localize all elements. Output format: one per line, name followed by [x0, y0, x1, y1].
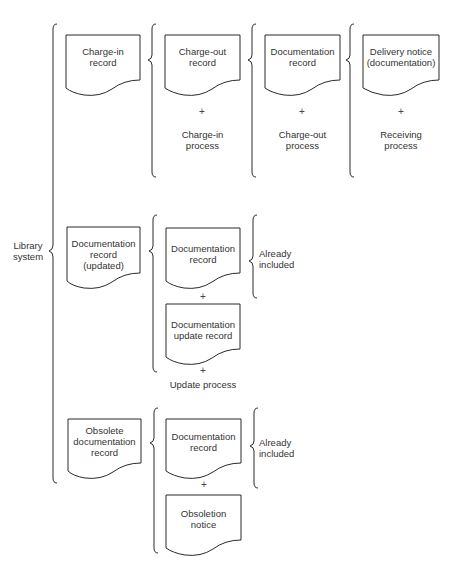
label-line: record: [265, 57, 340, 68]
row1-brace-3: [346, 24, 354, 177]
label-line: Charge-in: [66, 46, 140, 57]
diagram-lines: [0, 0, 460, 567]
label-line: notice: [164, 519, 243, 530]
label-line: Delivery notice: [361, 46, 441, 57]
label-line: process: [363, 140, 439, 151]
plus-sign: +: [197, 292, 209, 302]
label-line: Charge-in: [165, 129, 240, 140]
label-receiving-process: Receiving process: [363, 129, 439, 151]
label-line: Documentation: [164, 319, 242, 330]
label-line: Documentation: [164, 431, 243, 442]
label-line: record: [164, 254, 242, 265]
label-line: Obsolete: [64, 425, 145, 436]
label-already-included: Already included: [259, 248, 299, 270]
label-line: Receiving: [363, 129, 439, 140]
row2-brace: [149, 215, 157, 372]
root-label-text: Library system: [10, 240, 46, 262]
label-line: included: [259, 448, 299, 459]
label-row3-documentation-record: Documentation record: [164, 431, 243, 453]
label-delivery-notice: Delivery notice (documentation): [361, 46, 441, 68]
label-update-process: Update process: [160, 379, 246, 390]
row3-brace: [150, 408, 158, 553]
label-documentation-update-record: Documentation update record: [164, 319, 242, 341]
label-line: Documentation: [164, 243, 242, 254]
label-line: documentation: [64, 436, 145, 447]
label-charge-out-record: Charge-out record: [165, 46, 240, 68]
label-charge-in-process: Charge-in process: [165, 129, 240, 151]
label-line: record: [164, 442, 243, 453]
label-line: record: [64, 447, 145, 458]
label-charge-out-process: Charge-out process: [265, 129, 340, 151]
label-line: Charge-out: [165, 46, 240, 57]
label-line: Obsoletion: [164, 508, 243, 519]
plus-sign: +: [395, 107, 407, 117]
label-line: process: [165, 140, 240, 151]
label-line: Documentation: [265, 46, 340, 57]
row3-note-brace: [250, 408, 258, 488]
label-line: Already: [259, 437, 299, 448]
row1-brace-2: [248, 24, 256, 177]
plus-sign: +: [198, 480, 210, 490]
label-line: update record: [164, 330, 242, 341]
label-line: included: [259, 259, 299, 270]
label-line: Already: [259, 248, 299, 259]
root-label: Library system: [10, 240, 52, 262]
label-line: Documentation: [64, 238, 143, 249]
label-charge-in-record: Charge-in record: [66, 46, 140, 68]
plus-sign: +: [196, 107, 208, 117]
label-line: record: [66, 57, 140, 68]
label-line: process: [265, 140, 340, 151]
label-row2-documentation-record: Documentation record: [164, 243, 242, 265]
plus-sign: +: [296, 107, 308, 117]
label-line: Charge-out: [265, 129, 340, 140]
label-obsoletion-notice: Obsoletion notice: [164, 508, 243, 530]
row1-brace-1: [148, 24, 156, 177]
label-documentation-record: Documentation record: [265, 46, 340, 68]
label-line: (updated): [64, 260, 143, 271]
label-documentation-record-updated: Documentation record (updated): [64, 238, 143, 271]
label-line: record: [165, 57, 240, 68]
label-obsolete-documentation-record: Obsolete documentation record: [64, 425, 145, 458]
row2-note-brace: [249, 215, 257, 298]
plus-sign: +: [197, 366, 209, 376]
label-line: (documentation): [361, 57, 441, 68]
label-line: record: [64, 249, 143, 260]
label-already-included: Already included: [259, 437, 299, 459]
